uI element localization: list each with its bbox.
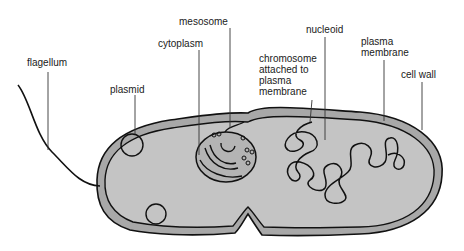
label-plasmid: plasmid — [110, 84, 144, 95]
label-chromosome-attached: chromosome attached to plasma membrane — [259, 53, 317, 97]
label-nucleoid: nucleoid — [306, 24, 343, 35]
label-cell-wall: cell wall — [401, 69, 436, 80]
label-flagellum: flagellum — [27, 57, 67, 68]
label-mesosome: mesosome — [179, 16, 228, 27]
plasma-membrane — [105, 117, 434, 228]
label-plasma-membrane: plasma membrane — [361, 36, 409, 58]
label-cytoplasm: cytoplasm — [158, 38, 203, 49]
flagellum — [18, 85, 100, 186]
